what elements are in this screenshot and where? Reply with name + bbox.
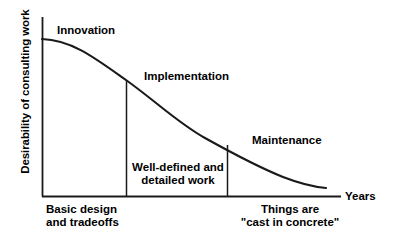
- phase-label-maintenance: Maintenance: [252, 134, 322, 147]
- phase-label-innovation: Innovation: [57, 24, 115, 37]
- band-caption-implementation: Well-defined and detailed work: [128, 161, 228, 187]
- axis-caption-right-line2: "cast in concrete": [232, 216, 348, 229]
- axis-caption-left-line2: and tradeoffs: [46, 216, 119, 229]
- y-axis-title: Desirability of consulting work: [12, 0, 38, 212]
- band-caption-implementation-line1: Well-defined and: [128, 161, 228, 174]
- axis-caption-left-line1: Basic design: [46, 203, 119, 216]
- axis-caption-left: Basic design and tradeoffs: [46, 203, 119, 229]
- axis-caption-right-line1: Things are: [232, 203, 348, 216]
- x-axis-title: Years: [345, 190, 376, 203]
- phase-label-implementation: Implementation: [144, 70, 229, 83]
- axis-caption-right: Things are "cast in concrete": [232, 203, 348, 229]
- band-caption-implementation-line2: detailed work: [128, 174, 228, 187]
- consulting-desirability-chart: Desirability of consulting work Years In…: [0, 0, 393, 241]
